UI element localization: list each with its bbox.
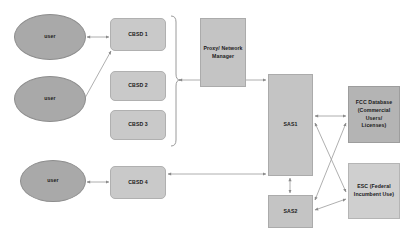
node-label: user (44, 33, 55, 41)
edge-sas2-esc (315, 199, 346, 210)
node-label: Proxy/ Network Manager (203, 45, 242, 60)
node-user-2: user (14, 76, 86, 122)
node-cbsd-4: CBSD 4 (110, 166, 166, 199)
node-label: ESC (Federal Incumbent Use) (354, 183, 394, 198)
node-cbsd-3: CBSD 3 (110, 110, 166, 140)
node-label: CBSD 1 (128, 31, 148, 39)
node-proxy-network-manager: Proxy/ Network Manager (200, 18, 246, 87)
node-label: CBSD 3 (128, 121, 148, 129)
cbsd-group-bracket (171, 16, 180, 146)
node-user-3: user (20, 160, 86, 202)
node-sas2: SAS2 (268, 195, 313, 228)
node-cbsd-1: CBSD 1 (110, 18, 166, 51)
node-label: CBSD 2 (128, 82, 148, 90)
node-cbsd-2: CBSD 2 (110, 71, 166, 101)
node-fcc-database: FCC Database (Commercial Users/ Licenses… (348, 86, 400, 143)
edge-sas1-esc (315, 123, 346, 192)
node-label: CBSD 4 (128, 179, 148, 187)
node-label: user (44, 95, 55, 103)
node-label: user (47, 177, 58, 185)
edge-sas2-fcc (315, 123, 346, 200)
node-user-1: user (14, 14, 86, 60)
node-label: SAS2 (284, 208, 298, 216)
node-label: SAS1 (284, 121, 298, 129)
node-esc: ESC (Federal Incumbent Use) (348, 163, 400, 219)
diagram-canvas: user user user CBSD 1 CBSD 2 CBSD 3 CBSD… (0, 0, 413, 241)
node-sas1: SAS1 (268, 74, 313, 176)
node-label: FCC Database (Commercial Users/ Licenses… (356, 99, 392, 129)
